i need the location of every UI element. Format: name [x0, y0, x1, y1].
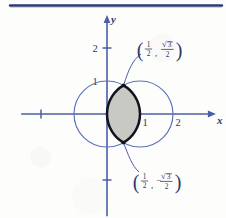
- x-tick-label-2: 2: [176, 117, 181, 128]
- annotation-upper-close-paren: ): [176, 39, 183, 62]
- lower-intersection-dot: [122, 141, 126, 145]
- y-tick-label-2: 2: [92, 43, 97, 54]
- upper-intersection-dot: [122, 84, 126, 88]
- annotation-upper-open-paren: (: [137, 39, 144, 62]
- y-axis-label: y: [109, 13, 116, 25]
- x-tick-label-1: 1: [143, 117, 148, 128]
- annotation-upper-comma: ,: [155, 48, 157, 58]
- annotation-lower-open-paren: (: [133, 171, 140, 194]
- x-axis-arrowhead: [208, 111, 216, 118]
- annotation-upper-x-fraction-numerator: 1: [147, 40, 151, 49]
- annotation-lower-comma: ,: [151, 180, 153, 190]
- geometry-figure: xy1221(12,√32)(12,−√32): [0, 0, 226, 218]
- annotation-upper-x-fraction-denominator: 2: [147, 49, 151, 58]
- y-axis-arrowhead: [104, 15, 111, 23]
- annotation-lower-close-paren: ): [175, 171, 182, 194]
- annotation-upper-y-fraction-radical: √: [162, 40, 167, 49]
- x-axis-label: x: [216, 114, 223, 126]
- lens-shaded-region: [107, 85, 140, 142]
- lower-leader-line: [124, 144, 139, 172]
- annotation-lower-x-fraction-numerator: 1: [143, 172, 147, 181]
- annotation-lower-y-fraction-radical: √: [161, 172, 166, 181]
- y-tick-label-1: 1: [92, 76, 97, 87]
- annotation-lower-y-fraction-denominator: 2: [165, 182, 169, 191]
- figure-container: xy1221(12,√32)(12,−√32): [0, 0, 226, 218]
- annotation-upper-y-fraction-denominator: 2: [166, 50, 170, 59]
- annotation-lower-x-fraction-denominator: 2: [143, 181, 147, 190]
